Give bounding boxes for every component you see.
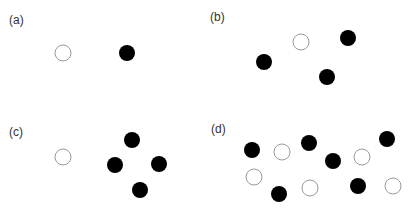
panel-b — [256, 30, 356, 85]
open-circle — [55, 149, 71, 165]
filled-circle — [256, 54, 272, 70]
filled-circle — [151, 156, 167, 172]
open-circle — [246, 169, 262, 185]
filled-circle — [340, 30, 356, 46]
circle-diagram — [0, 0, 418, 212]
open-circle — [274, 144, 290, 160]
open-circle — [385, 178, 401, 194]
filled-circle — [244, 142, 260, 158]
panel-d — [244, 131, 401, 202]
panel-c — [55, 132, 167, 198]
filled-circle — [132, 182, 148, 198]
filled-circle — [301, 135, 317, 151]
figure-canvas: (a) (b) (c) (d) — [0, 0, 418, 212]
filled-circle — [319, 69, 335, 85]
open-circle — [55, 45, 71, 61]
filled-circle — [119, 45, 135, 61]
filled-circle — [271, 186, 287, 202]
panel-a — [55, 45, 135, 61]
open-circle — [354, 149, 370, 165]
filled-circle — [379, 131, 395, 147]
filled-circle — [124, 132, 140, 148]
open-circle — [302, 180, 318, 196]
open-circle — [293, 34, 309, 50]
filled-circle — [350, 178, 366, 194]
filled-circle — [325, 153, 341, 169]
filled-circle — [107, 157, 123, 173]
